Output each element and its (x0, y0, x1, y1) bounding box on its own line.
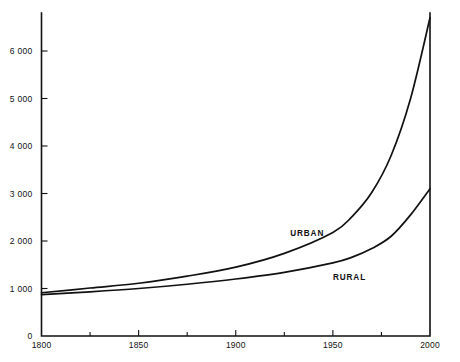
y-tick-label-1000: 1 000 (10, 284, 33, 294)
x-axis-tick-labels: 18001850190019502000 (32, 340, 440, 350)
series-label-rural: RURAL (333, 273, 366, 282)
x-tick-label-2000: 2000 (420, 340, 440, 350)
y-tick-label-6000: 6 000 (10, 46, 33, 56)
x-tick-label-1900: 1900 (226, 340, 246, 350)
y-tick-label-5000: 5 000 (10, 94, 33, 104)
series-line-urban (42, 18, 431, 293)
y-axis-tick-labels: 01 0002 0003 0004 0005 0006 000 (10, 46, 33, 341)
series-line-rural (42, 189, 431, 295)
y-tick-label-4000: 4 000 (10, 141, 33, 151)
y-tick-label-2000: 2 000 (10, 236, 33, 246)
chart-page: 01 0002 0003 0004 0005 0006 000 18001850… (0, 0, 460, 362)
line-chart: 01 0002 0003 0004 0005 0006 000 18001850… (0, 0, 460, 362)
x-tick-label-1950: 1950 (323, 340, 343, 350)
chart-series (42, 18, 431, 295)
chart-ticks (42, 51, 382, 336)
x-tick-label-1800: 1800 (32, 340, 52, 350)
y-tick-label-3000: 3 000 (10, 189, 33, 199)
x-tick-label-1850: 1850 (129, 340, 149, 350)
series-label-urban: URBAN (290, 229, 324, 238)
